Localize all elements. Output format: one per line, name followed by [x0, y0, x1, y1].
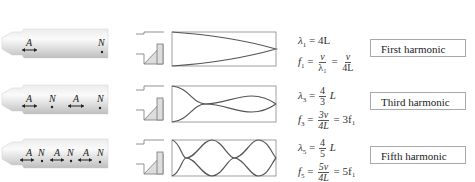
row-third-harmonic: A N A N λ3 = 43 L f3 = 3v4L = 3f₁ Third …	[0, 80, 475, 136]
harmonic-label: First harmonic	[370, 39, 466, 57]
svg-text:N: N	[37, 147, 46, 158]
equations: λ3 = 43 L f3 = 3v4L = 3f₁	[298, 86, 356, 131]
svg-text:A: A	[25, 37, 33, 48]
wave-diagram	[130, 80, 280, 128]
svg-text:A: A	[72, 93, 80, 104]
svg-text:N: N	[97, 37, 106, 48]
svg-text:A: A	[25, 147, 33, 158]
tube-diagram: A N A N	[0, 80, 112, 120]
harmonic-label: Fifth harmonic	[370, 146, 466, 164]
wave-diagram	[130, 24, 280, 72]
svg-text:N: N	[96, 147, 105, 158]
harmonic-label: Third harmonic	[370, 92, 466, 110]
svg-text:A: A	[53, 147, 61, 158]
svg-text:A: A	[25, 93, 33, 104]
equations: λ5 = 45 L f5 = 5v4L = 5f₁	[298, 138, 356, 182]
svg-text:A: A	[82, 147, 90, 158]
equations: λ1 = 4L f1 = vλ₁ = v4L	[298, 34, 355, 73]
svg-text:N: N	[96, 93, 105, 104]
tube-diagram: A N	[0, 24, 112, 64]
row-fifth-harmonic: A N A N A N λ5 = 45 L f5 = 5v4L = 5f₁ Fi…	[0, 134, 475, 182]
wave-diagram	[130, 134, 280, 182]
tube-diagram: A N A N A N	[0, 134, 112, 174]
row-first-harmonic: A N λ1 = 4L f1 = vλ₁ = v4L First harmoni…	[0, 24, 475, 80]
svg-text:N: N	[66, 147, 75, 158]
svg-text:N: N	[48, 93, 57, 104]
